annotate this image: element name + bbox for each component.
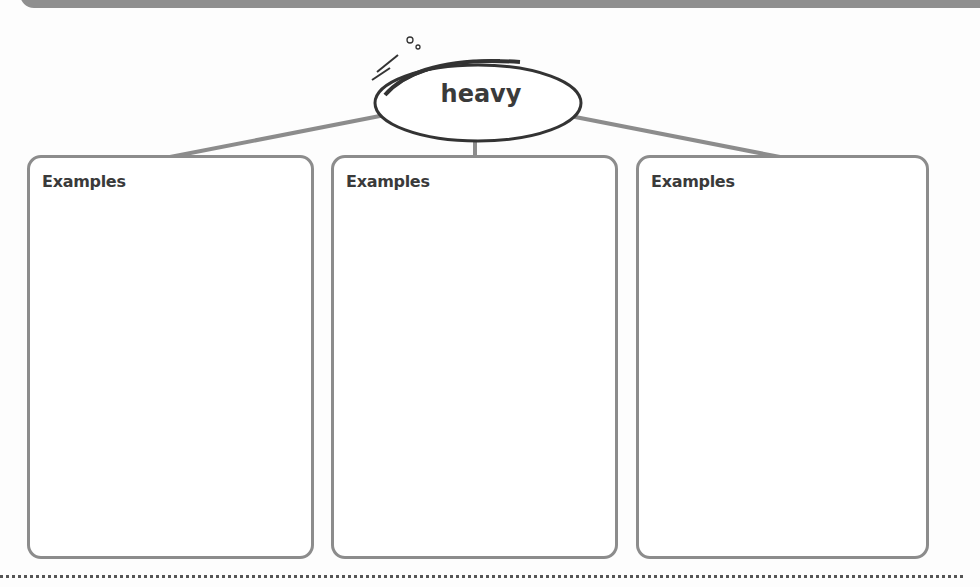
concept-word: heavy (410, 80, 552, 108)
examples-box-3[interactable]: Examples (636, 155, 929, 559)
examples-box-2[interactable]: Examples (331, 155, 618, 559)
box-label: Examples (42, 172, 126, 191)
box-label: Examples (651, 172, 735, 191)
examples-box-1[interactable]: Examples (27, 155, 314, 559)
cut-line-divider (0, 575, 963, 578)
box-label: Examples (346, 172, 430, 191)
